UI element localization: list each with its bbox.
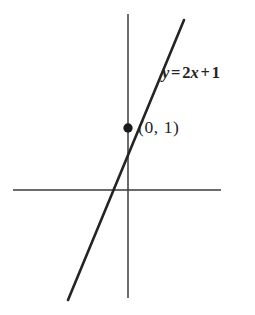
y-intercept-point-marker [123, 123, 132, 132]
line-graph-figure: y=2x+1 (0, 1) [0, 0, 255, 315]
graph-canvas [0, 0, 255, 315]
function-line-y-equals-2x-plus-1 [68, 20, 184, 300]
